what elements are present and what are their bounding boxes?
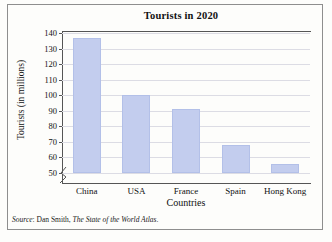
bar-france [172, 109, 200, 173]
figure-container: Tourists in 2020 Tourists (in millions) … [0, 0, 332, 242]
y-axis-tick-label: 110 [45, 75, 57, 85]
y-axis-tick-label: 80 [49, 121, 58, 131]
bar-china [73, 38, 101, 173]
y-axis-tick [59, 49, 62, 50]
axis-break-icon [57, 166, 69, 184]
chart-title-text: Tourists in 2020 [114, 10, 219, 21]
y-axis-tick [59, 111, 62, 112]
x-axis-tick-label: Hong Kong [264, 186, 306, 196]
y-axis-tick-label: 70 [49, 137, 58, 147]
y-axis-tick [59, 80, 62, 81]
y-axis-tick [59, 142, 62, 143]
plot-top-rule [62, 31, 311, 32]
chart-title: Tourists in 2020 [0, 10, 332, 21]
bar-spain [222, 145, 250, 173]
y-axis-tick [59, 157, 62, 158]
source-author: Dan Smith, [37, 215, 73, 224]
y-axis-tick-label: 140 [44, 28, 57, 38]
x-axis-tick-label: Spain [225, 186, 246, 196]
x-axis-tick-label: France [174, 186, 199, 196]
source-end: . [157, 215, 159, 224]
gridline [62, 33, 310, 34]
x-axis-line [62, 183, 311, 184]
gridline [62, 173, 310, 174]
x-axis-tick-label: USA [127, 186, 145, 196]
source-note: Source: Dan Smith, The State of the Worl… [12, 215, 158, 224]
y-axis-tick [59, 64, 62, 65]
y-axis-tick [59, 126, 62, 127]
y-axis-title: Tourists (in millions) [16, 30, 26, 170]
y-axis-tick [59, 95, 62, 96]
y-axis-tick-label: 100 [44, 90, 57, 100]
y-axis-tick-label: 120 [44, 59, 57, 69]
y-axis-tick [59, 33, 62, 34]
x-axis-title: Countries [62, 197, 310, 208]
x-axis-tick-label: China [76, 186, 98, 196]
y-axis-tick-label: 90 [49, 106, 58, 116]
plot-area: 1401301201101009080706050 [62, 33, 310, 173]
source-prefix: Source [12, 215, 33, 224]
y-axis-tick-label: 130 [44, 44, 57, 54]
bar-usa [122, 95, 150, 173]
y-axis-tick-label: 50 [49, 168, 58, 178]
y-axis-tick-label: 60 [49, 152, 58, 162]
bar-hong-kong [271, 164, 299, 173]
source-work: The State of the World Atlas [73, 215, 157, 224]
